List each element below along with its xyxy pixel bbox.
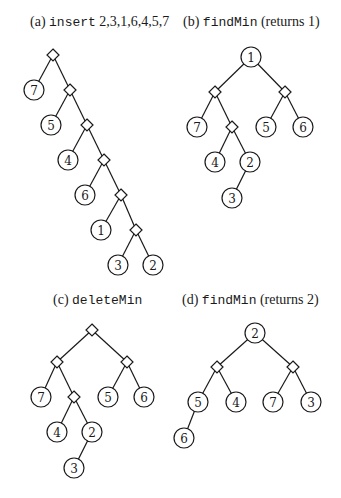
heap-node-7: 7: [24, 80, 44, 100]
heap-node-5: 5: [98, 387, 118, 407]
node-label: 2: [149, 259, 157, 273]
node-label: 1: [247, 51, 255, 65]
heap-node-2: 2: [143, 255, 163, 275]
tree-edge: [70, 90, 87, 125]
node-label: 5: [194, 396, 202, 410]
heap-node-7: 7: [263, 392, 283, 412]
panel-a-tree: 7546132: [24, 49, 163, 275]
node-label: 2: [246, 156, 254, 170]
heap-node-6: 6: [134, 387, 154, 407]
heap-node-5: 5: [188, 392, 208, 412]
node-label: 6: [299, 121, 307, 135]
internal-diamond-node: [226, 121, 238, 133]
heap-node-2: 2: [82, 422, 102, 442]
node-label: 3: [70, 462, 78, 476]
heap-node-4: 4: [47, 422, 67, 442]
node-label: 6: [81, 189, 89, 203]
node-label: 5: [262, 121, 270, 135]
node-label: 3: [307, 396, 315, 410]
heap-node-5: 5: [41, 115, 61, 135]
panel-d-tree: 254736: [174, 323, 321, 448]
internal-diamond-node: [47, 49, 59, 61]
tree-edge: [57, 330, 92, 362]
node-label: 4: [53, 426, 61, 440]
tree-edge: [215, 92, 232, 127]
internal-diamond-node: [98, 154, 110, 166]
heap-node-1: 1: [91, 220, 111, 240]
node-label: 2: [88, 426, 96, 440]
node-label: 6: [140, 391, 148, 405]
heap-node-6: 6: [174, 428, 194, 448]
heap-node-2: 2: [245, 323, 265, 343]
node-label: 4: [232, 396, 240, 410]
heap-node-3: 3: [64, 458, 84, 478]
node-label: 1: [97, 224, 105, 238]
heap-node-3: 3: [301, 392, 321, 412]
node-label: 5: [47, 119, 55, 133]
panel-b-tree: 1756423: [187, 47, 313, 208]
tree-edge: [87, 125, 104, 160]
node-label: 7: [37, 391, 45, 405]
heap-node-7: 7: [187, 117, 207, 137]
tree-edge: [121, 195, 136, 230]
heap-node-2: 2: [240, 152, 260, 172]
node-label: 3: [228, 192, 236, 206]
node-label: 4: [64, 154, 72, 168]
heap-node-1: 1: [241, 47, 261, 67]
tree-edge: [104, 160, 121, 195]
heap-node-6: 6: [75, 185, 95, 205]
node-label: 2: [251, 327, 259, 341]
heap-node-3: 3: [222, 188, 242, 208]
node-label: 3: [114, 259, 122, 273]
heap-diagram: 7546132 1756423 756423 254736: [0, 0, 341, 498]
heap-node-4: 4: [58, 150, 78, 170]
internal-diamond-node: [81, 119, 93, 131]
internal-diamond-node: [64, 84, 76, 96]
tree-edge: [92, 330, 127, 362]
heap-node-5: 5: [256, 117, 276, 137]
node-label: 6: [180, 432, 188, 446]
node-label: 7: [30, 84, 38, 98]
internal-diamond-node: [68, 391, 80, 403]
internal-diamond-node: [115, 189, 127, 201]
node-label: 5: [104, 391, 112, 405]
node-label: 4: [211, 156, 219, 170]
node-label: 7: [269, 396, 277, 410]
heap-node-7: 7: [31, 387, 51, 407]
tree-edge: [53, 55, 70, 90]
heap-node-6: 6: [293, 117, 313, 137]
tree-edge: [57, 362, 74, 397]
node-label: 7: [193, 121, 201, 135]
heap-node-4: 4: [226, 392, 246, 412]
heap-node-4: 4: [205, 152, 225, 172]
heap-node-3: 3: [108, 255, 128, 275]
internal-diamond-node: [130, 224, 142, 236]
panel-c-tree: 756423: [31, 324, 154, 478]
